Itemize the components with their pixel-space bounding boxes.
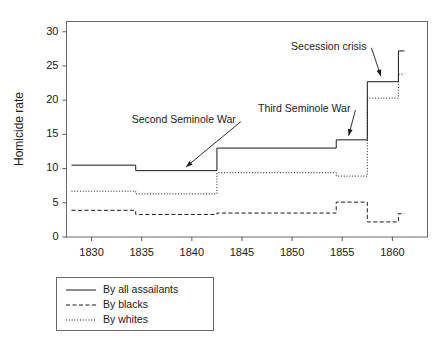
y-tick-label: 15	[46, 127, 58, 139]
chart-figure: Homicide rate 051015202530 1830183518401…	[0, 0, 442, 349]
chart-annotation-label: Second Seminole War	[132, 113, 237, 125]
x-tick-label: 1830	[79, 246, 103, 258]
y-tick-label: 30	[46, 25, 58, 37]
x-axis-ticks: 1830183518401845185018551860	[79, 237, 404, 258]
x-tick-label: 1855	[330, 246, 354, 258]
legend-entry-label: By blacks	[103, 298, 148, 310]
x-tick-label: 1835	[129, 246, 153, 258]
legend-entry-label: By whites	[103, 313, 148, 325]
annotation-leader-line	[186, 122, 241, 167]
y-tick-label: 0	[52, 230, 58, 242]
series-line-solid	[72, 51, 405, 171]
chart-annotation-label: Secession crisis	[291, 40, 366, 52]
chart-annotation-label: Third Seminole War	[258, 102, 351, 114]
y-tick-label: 5	[52, 196, 58, 208]
y-axis-ticks: 051015202530	[46, 25, 66, 242]
series-line-dashed	[72, 202, 405, 222]
x-tick-label: 1850	[280, 246, 304, 258]
annotation-arrowhead	[348, 129, 353, 136]
x-tick-label: 1845	[230, 246, 254, 258]
x-tick-label: 1840	[180, 246, 204, 258]
y-axis-label: Homicide rate	[12, 92, 26, 166]
series-group	[72, 51, 405, 222]
y-tick-label: 10	[46, 161, 58, 173]
series-line-dotted	[72, 74, 405, 194]
x-tick-label: 1860	[380, 246, 404, 258]
y-tick-label: 20	[46, 93, 58, 105]
y-tick-label: 25	[46, 59, 58, 71]
annotation-arrowhead	[377, 69, 382, 76]
chart-legend: By all assailantsBy blacksBy whites	[57, 278, 214, 331]
legend-entry-label: By all assailants	[103, 283, 178, 295]
homicide-rate-step-chart: Homicide rate 051015202530 1830183518401…	[0, 0, 442, 349]
